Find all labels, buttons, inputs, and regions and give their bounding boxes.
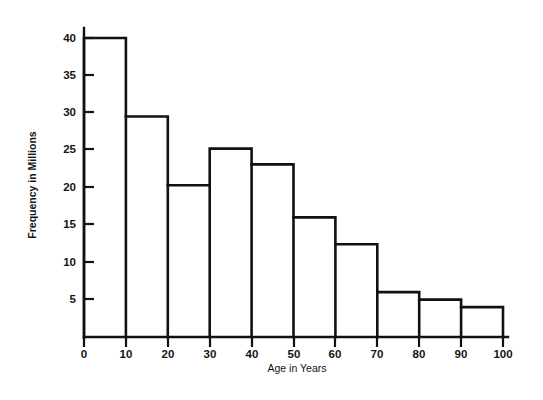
x-tick-label: 50 bbox=[288, 348, 301, 360]
y-tick-label: 30 bbox=[63, 106, 76, 118]
x-tick-label: 40 bbox=[246, 348, 259, 360]
x-tick-label: 100 bbox=[493, 348, 512, 360]
x-tick-label: 70 bbox=[371, 348, 384, 360]
chart-canvas: 40 35 30 25 20 15 10 5 0 10 20 bbox=[0, 0, 543, 400]
y-axis-title: Frequency in Millions bbox=[26, 131, 38, 239]
x-tick-label: 20 bbox=[162, 348, 175, 360]
y-tick-label: 20 bbox=[63, 181, 76, 193]
x-tick-label: 0 bbox=[81, 348, 87, 360]
x-tick-label: 90 bbox=[455, 348, 468, 360]
y-tick-label: 25 bbox=[63, 143, 76, 155]
x-tick-label: 30 bbox=[204, 348, 217, 360]
y-tick-label: 10 bbox=[63, 256, 76, 268]
y-tick-label: 15 bbox=[63, 218, 76, 230]
y-tick-label: 40 bbox=[63, 32, 76, 44]
x-axis-title: Age in Years bbox=[268, 362, 327, 374]
y-tick-label: 35 bbox=[63, 69, 76, 81]
y-tick-label: 5 bbox=[70, 293, 77, 305]
x-tick-label: 80 bbox=[413, 348, 426, 360]
histogram-figure: 40 35 30 25 20 15 10 5 0 10 20 bbox=[0, 0, 543, 400]
x-tick-label: 60 bbox=[329, 348, 342, 360]
x-tick-label: 10 bbox=[120, 348, 133, 360]
